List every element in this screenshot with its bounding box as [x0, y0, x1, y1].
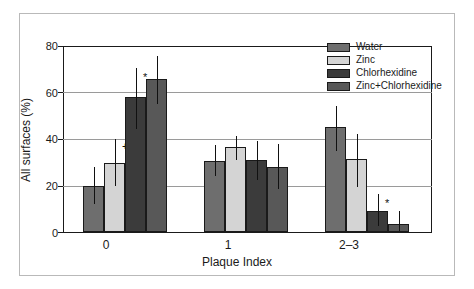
error-bar	[136, 68, 137, 128]
y-tick-60	[58, 92, 63, 93]
legend-swatch-icon	[327, 69, 350, 78]
error-bar	[378, 194, 379, 227]
legend-swatch-icon	[327, 56, 350, 65]
legend-label: Zinc+Chlorhexidine	[356, 81, 442, 91]
y-tick-label-20: 20	[36, 180, 58, 192]
y-tick-80	[58, 46, 63, 47]
y-axis-title: All surfaces (%)	[19, 97, 33, 181]
legend-label: Zinc	[356, 55, 375, 65]
error-bar	[157, 56, 158, 104]
y-tick-label-60: 60	[36, 87, 58, 99]
error-bar	[399, 211, 400, 231]
gridline-40	[63, 139, 432, 140]
chart-legend: WaterZincChlorhexidineZinc+Chlorhexidine	[327, 41, 437, 93]
x-tick-label-1: 1	[208, 238, 248, 252]
chart-figure: All surfaces (%) 80 60 40 20 0 +** 0 1 2…	[0, 0, 474, 289]
error-bar	[215, 145, 216, 176]
error-bar	[236, 136, 237, 160]
legend-label: Chlorhexidine	[356, 68, 417, 78]
error-bar	[336, 106, 337, 150]
y-tick-0	[58, 232, 63, 233]
significance-marker: *	[385, 198, 389, 209]
x-tick-label-0: 0	[86, 238, 126, 252]
y-tick-label-40: 40	[36, 133, 58, 145]
legend-item[interactable]: Chlorhexidine	[327, 67, 437, 79]
error-bar	[257, 141, 258, 179]
x-axis-title: Plaque Index	[0, 255, 474, 269]
legend-swatch-icon	[327, 82, 350, 91]
y-tick-label-80: 80	[36, 40, 58, 52]
error-bar	[278, 144, 279, 189]
x-tick-label-2-3: 2–3	[329, 238, 369, 252]
legend-item[interactable]: Zinc+Chlorhexidine	[327, 80, 437, 92]
y-axis-title-container: All surfaces (%)	[18, 46, 34, 233]
legend-item[interactable]: Zinc	[327, 54, 437, 66]
y-tick-label-0: 0	[36, 227, 58, 239]
y-tick-40	[58, 139, 63, 140]
legend-swatch-icon	[327, 43, 350, 52]
axis-frame-bottom	[63, 232, 432, 233]
error-bar	[115, 139, 116, 186]
y-tick-20	[58, 186, 63, 187]
legend-label: Water	[356, 42, 382, 52]
error-bar	[94, 167, 95, 204]
error-bar	[357, 134, 358, 186]
legend-item[interactable]: Water	[327, 41, 437, 53]
